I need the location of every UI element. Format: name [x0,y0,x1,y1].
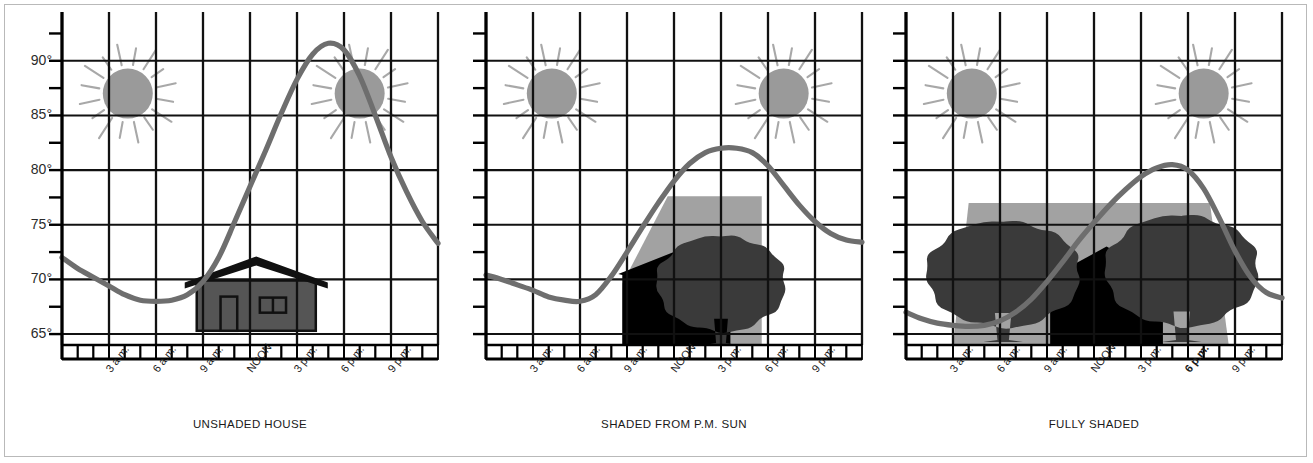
y-axis-tick-label: 85° [6,106,52,122]
sun-icon [312,45,408,143]
sun-icon [80,45,176,143]
scene-house-plain [185,256,328,330]
sun-icon [1156,45,1252,143]
sun-icon [504,45,600,143]
y-axis-tick-label: 80° [6,161,52,177]
panel-caption-fully-shaded: FULLY SHADED [906,418,1282,430]
sun-icon [924,45,1020,143]
suns-group [80,45,408,143]
gridlines [62,12,438,345]
scene-house-one-tree [618,196,785,345]
panel-caption-unshaded-house: UNSHADED HOUSE [62,418,438,430]
panel-caption-shaded-from-pm-sun: SHADED FROM P.M. SUN [486,418,862,430]
house-icon [185,256,328,330]
suns-group [504,45,832,143]
suns-group [924,45,1252,143]
y-axis-tick-label: 90° [6,52,52,68]
y-axis-tick-label: 65° [6,325,52,341]
y-axis-tick-label: 70° [6,270,52,286]
sun-icon [736,45,832,143]
plot-area-unshaded-house [22,0,518,420]
y-axis-tick-label: 75° [6,216,52,232]
